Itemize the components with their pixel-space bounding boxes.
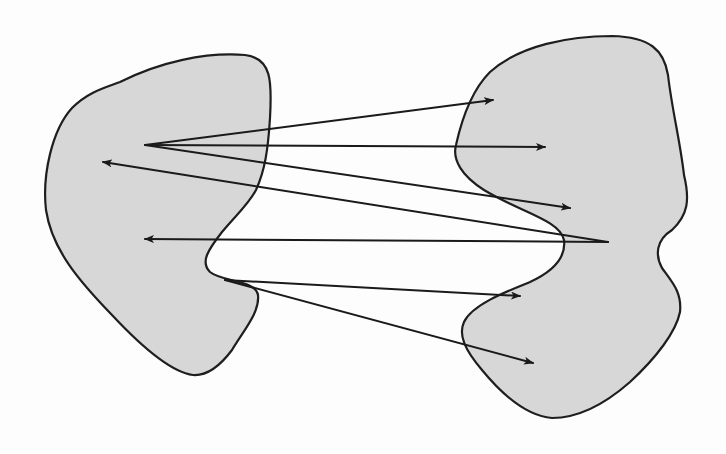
mapping-arrow-6: [225, 280, 520, 296]
regions-layer: [45, 36, 687, 418]
mapping-diagram: [0, 0, 726, 454]
right-set-region: [455, 36, 687, 418]
left-set-region: [45, 54, 271, 375]
diagram-canvas: 4.12: [0, 0, 726, 454]
